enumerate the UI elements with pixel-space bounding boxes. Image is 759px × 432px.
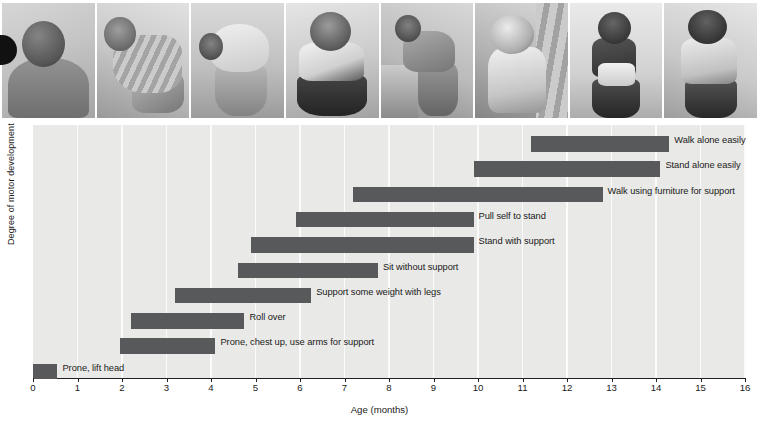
bar-label: Support some weight with legs <box>316 287 441 297</box>
bar-label: Walk using furniture for support <box>608 186 735 196</box>
bar-row: Support some weight with legs <box>33 283 745 308</box>
bar-label: Prone, lift head <box>62 363 124 373</box>
photo-baby-prone-lift-head <box>2 3 95 118</box>
bar-sit-without-support <box>238 263 378 279</box>
bar-row: Stand with support <box>33 232 745 257</box>
bar-prone-chest-up-use-arms-for-support <box>120 338 216 354</box>
bar-row: Stand alone easily <box>33 156 745 181</box>
bar-label: Sit without support <box>383 262 459 272</box>
x-tick-label-13: 13 <box>606 382 617 393</box>
bar-walk-alone-easily <box>531 136 669 152</box>
x-tick-label-6: 6 <box>297 382 302 393</box>
bar-row: Roll over <box>33 308 745 333</box>
bar-row: Walk using furniture for support <box>33 182 745 207</box>
y-axis-title: Degree of motor development <box>6 123 16 245</box>
bar-row: Walk alone easily <box>33 131 745 156</box>
motor-development-chart: Degree of motor development Walk alone e… <box>0 120 759 432</box>
milestone-photo-strip <box>0 0 759 120</box>
bar-stand-alone-easily <box>474 161 661 177</box>
x-tick-label-0: 0 <box>30 382 35 393</box>
x-tick-label-3: 3 <box>164 382 169 393</box>
bar-row: Pull self to stand <box>33 207 745 232</box>
photo-baby-crawling <box>191 3 284 118</box>
x-tick-label-12: 12 <box>562 382 573 393</box>
x-tick-label-9: 9 <box>431 382 436 393</box>
photo-baby-sitting-without-support <box>286 3 379 118</box>
x-tick-label-11: 11 <box>518 382 528 393</box>
bar-row: Prone, chest up, use arms for support <box>33 333 745 358</box>
photo-baby-rolling-over <box>97 3 190 118</box>
photo-baby-walking-with-help <box>570 3 663 118</box>
bar-row: Sit without support <box>33 258 745 283</box>
bar-walk-using-furniture-for-support <box>353 187 602 203</box>
bar-support-some-weight-with-legs <box>175 288 311 304</box>
x-tick-label-10: 10 <box>473 382 484 393</box>
bar-label: Walk alone easily <box>674 135 745 145</box>
x-tick-label-5: 5 <box>253 382 258 393</box>
bar-prone-lift-head <box>33 364 57 380</box>
x-tick-label-15: 15 <box>695 382 706 393</box>
bar-label: Pull self to stand <box>479 211 546 221</box>
photo-baby-standing-with-support <box>475 3 568 118</box>
photo-baby-pulling-self-to-stand <box>381 3 474 118</box>
x-tick-label-1: 1 <box>75 382 80 393</box>
x-tick-label-2: 2 <box>119 382 124 393</box>
x-axis-title: Age (months) <box>0 404 759 415</box>
x-tick-label-7: 7 <box>342 382 347 393</box>
x-tick-label-8: 8 <box>386 382 391 393</box>
photo-baby-walking-alone <box>664 3 757 118</box>
x-tick-label-4: 4 <box>208 382 213 393</box>
bar-label: Stand with support <box>479 236 555 246</box>
bar-label: Stand alone easily <box>665 160 740 170</box>
plot-area: Walk alone easilyStand alone easilyWalk … <box>33 125 745 379</box>
bar-pull-self-to-stand <box>296 212 474 228</box>
x-tick-label-16: 16 <box>740 382 751 393</box>
bar-roll-over <box>131 313 244 329</box>
bar-label: Roll over <box>249 312 285 322</box>
x-tick-label-14: 14 <box>651 382 662 393</box>
bar-label: Prone, chest up, use arms for support <box>220 337 374 347</box>
bar-stand-with-support <box>251 237 474 253</box>
